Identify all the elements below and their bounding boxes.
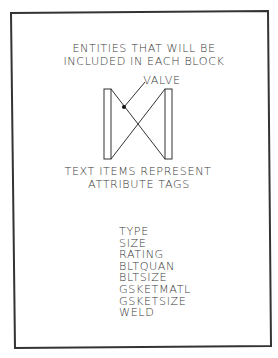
valve-insertion-point — [122, 105, 126, 109]
valve-right-flange — [165, 89, 172, 159]
attribute-tag-weld: WELD — [119, 306, 154, 319]
valve-left-flange — [104, 89, 111, 159]
gate-valve-icon — [104, 82, 172, 159]
note-line-2: ATTRIBUTE TAGS — [88, 178, 190, 191]
attribute-tag-list: TYPESIZERATINGBLTQUANBLTSIZEGSKETMATLGSK… — [119, 225, 191, 319]
cad-drawing: ENTITIES THAT WILL BE INCLUDED IN EACH B… — [0, 0, 278, 358]
valve-label: VALVE — [143, 74, 180, 87]
note-line-1: TEXT ITEMS REPRESENT — [64, 165, 211, 178]
valve-leader-line — [124, 82, 145, 107]
header-line-2: INCLUDED IN EACH BLOCK — [63, 55, 224, 68]
header-line-1: ENTITIES THAT WILL BE — [72, 42, 215, 55]
